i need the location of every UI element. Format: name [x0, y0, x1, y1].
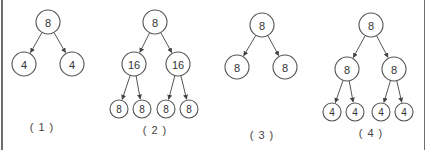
node-value: 8	[282, 62, 288, 74]
node-value: 4	[21, 59, 27, 71]
node-value: 8	[259, 20, 265, 32]
edge-arrow	[377, 36, 388, 58]
tree-caption: ( 3 )	[250, 129, 275, 141]
node-value: 8	[186, 104, 192, 115]
tree-node: 8	[250, 13, 274, 37]
tree-node: 8	[335, 57, 359, 81]
node-value: 8	[368, 20, 374, 32]
edge-arrow	[353, 36, 365, 58]
tree-node: 8	[382, 57, 406, 81]
node-value: 16	[172, 59, 184, 71]
node-value: 4	[401, 107, 407, 118]
edge-arrow	[244, 35, 256, 56]
node-value: 8	[234, 62, 240, 74]
tree-node: 4	[323, 103, 341, 121]
tree-4: 8884444( 4 )	[323, 13, 413, 139]
node-value: 8	[344, 64, 350, 76]
tree-node: 8	[225, 55, 249, 79]
tree-node: 8	[273, 55, 297, 79]
node-value: 4	[329, 107, 335, 118]
node-value: 8	[163, 104, 169, 115]
tree-node: 8	[157, 100, 175, 118]
tree-2: 816168888( 2 )	[110, 10, 198, 136]
node-value: 8	[45, 17, 51, 29]
edge-arrow	[136, 76, 140, 99]
node-value: 16	[128, 59, 140, 71]
edge-arrow	[54, 32, 66, 52]
tree-node: 8	[36, 10, 60, 34]
tree-diagrams: 844( 1 ) 816168888( 2 ) 888( 3 ) 8884444…	[0, 0, 426, 150]
node-value: 8	[139, 104, 145, 115]
tree-1: 844( 1 )	[12, 10, 84, 133]
edge-arrow	[268, 36, 279, 56]
node-value: 4	[69, 59, 75, 71]
tree-node: 16	[122, 52, 146, 76]
edge-arrow	[122, 75, 130, 99]
node-value: 4	[378, 107, 384, 118]
edge-arrow	[397, 81, 402, 103]
node-value: 8	[152, 17, 158, 29]
edge-arrow	[181, 76, 187, 100]
diagram-frame: 844( 1 ) 816168888( 2 ) 888( 3 ) 8884444…	[0, 0, 426, 150]
edge-arrow	[335, 80, 343, 102]
tree-node: 4	[12, 52, 36, 76]
tree-node: 4	[60, 52, 84, 76]
edge-arrow	[30, 32, 42, 52]
edge-arrow	[169, 76, 175, 100]
tree-node: 8	[143, 10, 167, 34]
tree-node: 4	[346, 103, 364, 121]
tree-node: 8	[359, 13, 383, 37]
tree-node: 8	[110, 100, 128, 118]
tree-node: 4	[372, 103, 390, 121]
node-value: 8	[116, 104, 122, 115]
edge-arrow	[140, 33, 150, 53]
node-value: 4	[352, 107, 358, 118]
tree-node: 8	[133, 100, 151, 118]
tree-node: 8	[180, 100, 198, 118]
edge-arrow	[349, 81, 353, 102]
node-value: 8	[391, 64, 397, 76]
tree-node: 16	[166, 52, 190, 76]
tree-node: 4	[395, 103, 413, 121]
tree-caption: ( 1 )	[30, 121, 55, 133]
tree-caption: ( 2 )	[143, 124, 168, 136]
tree-3: 888( 3 )	[225, 13, 297, 141]
edge-arrow	[384, 80, 391, 102]
tree-caption: ( 4 )	[359, 127, 384, 139]
edge-arrow	[161, 33, 172, 53]
